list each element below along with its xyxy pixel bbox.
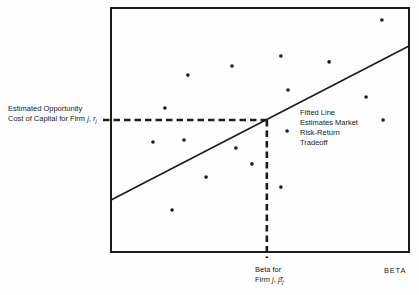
annotation-line2: Estimates Market [300,118,358,128]
y-axis-label: Estimated Opportunity Cost of Capital fo… [8,104,97,124]
annotation-line4: Tradeoff [300,138,358,148]
scatter-point [286,88,290,92]
scatter-point [279,185,283,189]
scatter-point [381,118,385,122]
scatter-point [250,162,254,166]
scatter-point [380,18,384,22]
scatter-point [170,208,174,212]
scatter-point [327,60,331,64]
scatter-point [364,95,368,99]
y-axis-label-line1: Estimated Opportunity [8,104,97,114]
scatter-point [230,64,234,68]
scatter-point [279,54,283,58]
scatter-point [285,129,289,133]
scatter-point [204,175,208,179]
beta-marker-label-line1: Beta for [255,265,283,275]
y-axis-label-line2: Cost of Capital for Firm j, rj [8,114,97,125]
x-axis-label: BETA [384,266,406,276]
risk-return-figure: Estimated Opportunity Cost of Capital fo… [0,0,419,295]
beta-marker-label: Beta for Firm j, β̂j [255,265,283,285]
beta-subscript: j [282,279,283,285]
scatter-point [163,106,167,110]
annotation-line3: Risk-Return [300,128,358,138]
fitted-line [111,46,409,200]
scatter-point [182,138,186,142]
scatter-point [234,146,238,150]
plot-border [111,8,409,252]
annotation-line1: Fitted Line [300,108,358,118]
scatter-point [186,73,190,77]
rate-subscript: j [96,118,97,124]
scatter-point [151,140,155,144]
beta-marker-label-line2: Firm j, β̂j [255,275,283,286]
fitted-line-annotation: Fitted Line Estimates Market Risk-Return… [300,108,358,148]
